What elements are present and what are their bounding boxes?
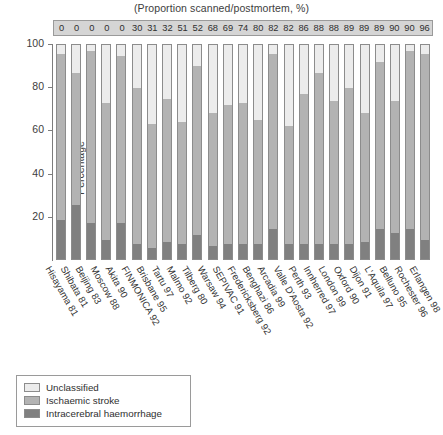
bar-segment: [300, 45, 308, 94]
bar-column[interactable]: [342, 44, 357, 260]
proportion-cell: 0: [115, 21, 130, 35]
bar-segment: [269, 229, 277, 259]
stacked-bar[interactable]: [238, 44, 248, 260]
bar-segment: [102, 45, 110, 103]
bar-column[interactable]: [205, 44, 220, 260]
bar-column[interactable]: [311, 44, 326, 260]
bar-column[interactable]: [403, 44, 418, 260]
proportion-cell: 30: [130, 21, 145, 35]
stacked-bar[interactable]: [344, 44, 354, 260]
bar-segment: [193, 45, 201, 66]
bar-segment: [300, 94, 308, 244]
bar-segment: [163, 45, 171, 99]
bar-segment: [117, 223, 125, 259]
bar-segment: [361, 113, 369, 241]
bar-column[interactable]: [235, 44, 250, 260]
bar-segment: [224, 105, 232, 244]
bar-segment: [148, 124, 156, 248]
bar-segment: [361, 242, 369, 259]
bar-segment: [406, 51, 414, 229]
bar-column[interactable]: [281, 44, 296, 260]
stacked-bar[interactable]: [390, 44, 400, 260]
bar-segment: [376, 62, 384, 229]
bar-segment: [57, 54, 65, 221]
proportion-cell: 0: [69, 21, 84, 35]
y-tick-label: 60: [4, 123, 44, 135]
stacked-bar[interactable]: [192, 44, 202, 260]
stacked-bar[interactable]: [177, 44, 187, 260]
bar-segment: [254, 244, 262, 259]
bar-column[interactable]: [190, 44, 205, 260]
bar-column[interactable]: [418, 44, 433, 260]
bar-segment: [421, 54, 429, 240]
bar-segment: [330, 45, 338, 101]
bar-column[interactable]: [296, 44, 311, 260]
proportion-scanned-strip: 0000030313251526869748082828688888989899…: [53, 20, 433, 36]
stacked-bar[interactable]: [329, 44, 339, 260]
stacked-bar[interactable]: [116, 44, 126, 260]
bar-column[interactable]: [53, 44, 68, 260]
bar-segment: [285, 244, 293, 259]
bar-segment: [376, 229, 384, 259]
stacked-bar[interactable]: [162, 44, 172, 260]
stacked-bar[interactable]: [284, 44, 294, 260]
y-tick-label: 80: [4, 80, 44, 92]
bar-column[interactable]: [357, 44, 372, 260]
bar-column[interactable]: [83, 44, 98, 260]
bar-segment: [315, 244, 323, 259]
bar-segment: [148, 248, 156, 259]
proportion-cell: 51: [175, 21, 190, 35]
proportion-cell: 74: [236, 21, 251, 35]
bar-column[interactable]: [251, 44, 266, 260]
bar-column[interactable]: [327, 44, 342, 260]
proportion-cell: 32: [160, 21, 175, 35]
bar-segment: [178, 244, 186, 259]
bar-column[interactable]: [387, 44, 402, 260]
stacked-bar[interactable]: [71, 44, 81, 260]
legend-swatch: [24, 396, 40, 405]
stacked-bar[interactable]: [375, 44, 385, 260]
bar-column[interactable]: [68, 44, 83, 260]
stacked-bar[interactable]: [420, 44, 430, 260]
bar-segment: [224, 45, 232, 105]
legend-item[interactable]: Unclassified: [24, 381, 183, 394]
stacked-bar[interactable]: [314, 44, 324, 260]
bar-column[interactable]: [220, 44, 235, 260]
bar-segment: [269, 45, 277, 54]
stacked-bar[interactable]: [208, 44, 218, 260]
proportion-cell: 88: [311, 21, 326, 35]
bar-column[interactable]: [114, 44, 129, 260]
stacked-bar[interactable]: [360, 44, 370, 260]
stacked-bar[interactable]: [405, 44, 415, 260]
bar-column[interactable]: [159, 44, 174, 260]
bar-column[interactable]: [175, 44, 190, 260]
stacked-bar[interactable]: [56, 44, 66, 260]
legend-item[interactable]: Intracerebral haemorrhage: [24, 407, 183, 420]
legend-swatch: [24, 383, 40, 392]
chart-title: (Proportion scanned/postmortem, %): [0, 2, 443, 14]
bar-column[interactable]: [372, 44, 387, 260]
stacked-bar[interactable]: [223, 44, 233, 260]
stacked-bar[interactable]: [147, 44, 157, 260]
bar-segment: [102, 240, 110, 259]
stacked-bar[interactable]: [86, 44, 96, 260]
stacked-bar[interactable]: [253, 44, 263, 260]
stacked-bar[interactable]: [299, 44, 309, 260]
bar-segment: [148, 45, 156, 124]
bar-column[interactable]: [144, 44, 159, 260]
legend-item[interactable]: Ischaemic stroke: [24, 394, 183, 407]
stacked-bar[interactable]: [268, 44, 278, 260]
stacked-bar[interactable]: [101, 44, 111, 260]
bar-column[interactable]: [99, 44, 114, 260]
bar-segment: [72, 45, 80, 73]
bar-segment: [117, 56, 125, 223]
bar-column[interactable]: [266, 44, 281, 260]
bar-segment: [254, 45, 262, 120]
proportion-cell: 82: [266, 21, 281, 35]
bar-segment: [178, 122, 186, 244]
bar-column[interactable]: [129, 44, 144, 260]
stacked-bar[interactable]: [132, 44, 142, 260]
legend-label: Intracerebral haemorrhage: [46, 408, 162, 419]
chart-legend: UnclassifiedIschaemic strokeIntracerebra…: [16, 375, 191, 427]
legend-swatch: [24, 409, 40, 418]
